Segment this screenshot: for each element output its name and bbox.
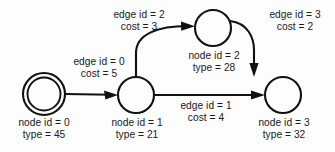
node-1-shape[interactable] [118, 77, 154, 113]
node-0-label-type: type = 45 [2, 129, 86, 141]
node-0-label: node id = 0 type = 45 [2, 117, 86, 142]
node-3-shape[interactable] [265, 77, 301, 113]
edge-1-arrowhead [251, 90, 265, 99]
node-2-label: node id = 2 type = 28 [172, 50, 256, 75]
node-1-label-type: type = 21 [95, 129, 179, 141]
edge-2-label-cost: cost = 3 [98, 21, 180, 33]
edge-2-arrowhead [181, 21, 195, 30]
edge-1-shape [154, 90, 265, 99]
edge-3-label: edge id = 3 cost = 2 [256, 9, 334, 34]
edge-1-label-cost: cost = 4 [165, 112, 247, 124]
node-2-circle [195, 10, 231, 46]
edge-3-label-cost: cost = 2 [256, 21, 334, 33]
edge-0-label-cost: cost = 5 [58, 68, 140, 80]
node-3-label-type: type = 32 [242, 129, 326, 141]
node-1-circle [118, 77, 154, 113]
edge-0-label: edge id = 0 cost = 5 [58, 56, 140, 81]
node-3-circle [265, 77, 301, 113]
node-0-label-id: node id = 0 [18, 117, 69, 128]
node-3-label-id: node id = 3 [258, 117, 309, 128]
graph-diagram: node id = 0 type = 45 node id = 1 type =… [0, 0, 335, 152]
node-2-label-type: type = 28 [172, 62, 256, 74]
edge-1-label: edge id = 1 cost = 4 [165, 100, 247, 125]
node-2-shape[interactable] [195, 10, 231, 46]
node-2-label-id: node id = 2 [188, 50, 239, 61]
node-3-label: node id = 3 type = 32 [242, 117, 326, 142]
node-1-label-id: node id = 1 [111, 117, 162, 128]
edge-1-label-id: edge id = 1 [180, 100, 231, 111]
edge-2-label-id: edge id = 2 [113, 9, 164, 20]
edge-0-arrowhead [104, 90, 118, 99]
edge-0-label-id: edge id = 0 [73, 56, 124, 67]
edge-3-label-id: edge id = 3 [269, 9, 320, 20]
edge-0-shape [65, 90, 118, 99]
edge-2-label: edge id = 2 cost = 3 [98, 9, 180, 34]
